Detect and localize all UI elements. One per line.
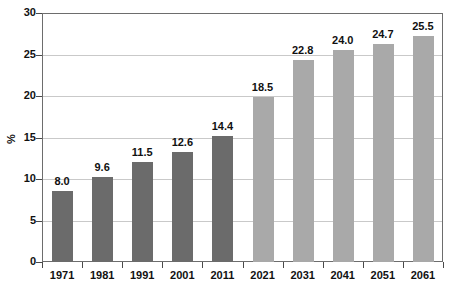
x-tick-mark <box>403 262 404 268</box>
bar-chart: % 051015202530 8.09.611.512.614.418.522.… <box>0 0 454 288</box>
x-tick-label: 2031 <box>283 270 323 281</box>
x-tick-mark <box>443 262 444 268</box>
x-tick-mark <box>283 262 284 268</box>
x-tick-mark <box>323 262 324 268</box>
x-tick-label: 2011 <box>202 270 242 281</box>
x-tick-label: 2001 <box>162 270 202 281</box>
x-tick-label: 2061 <box>403 270 443 281</box>
x-tick-label: 2041 <box>323 270 363 281</box>
x-tick-mark <box>162 262 163 268</box>
x-tick-mark <box>363 262 364 268</box>
x-tick-mark <box>122 262 123 268</box>
x-tick-label: 1991 <box>122 270 162 281</box>
x-tick-label: 1971 <box>42 270 82 281</box>
x-tick-mark <box>243 262 244 268</box>
x-tick-label: 2051 <box>363 270 403 281</box>
x-tick-mark <box>42 262 43 268</box>
x-axis-tick-marks <box>0 0 454 288</box>
x-tick-label: 2021 <box>243 270 283 281</box>
x-tick-mark <box>202 262 203 268</box>
x-tick-label: 1981 <box>82 270 122 281</box>
x-tick-mark <box>82 262 83 268</box>
